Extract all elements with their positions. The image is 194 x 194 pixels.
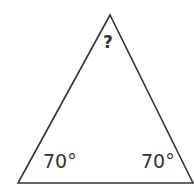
apex-angle-label: ?	[103, 34, 113, 51]
bottom-left-angle-label: 70°	[43, 152, 77, 171]
triangle-diagram: ? 70° 70°	[0, 0, 194, 194]
bottom-right-angle-label: 70°	[141, 152, 175, 171]
